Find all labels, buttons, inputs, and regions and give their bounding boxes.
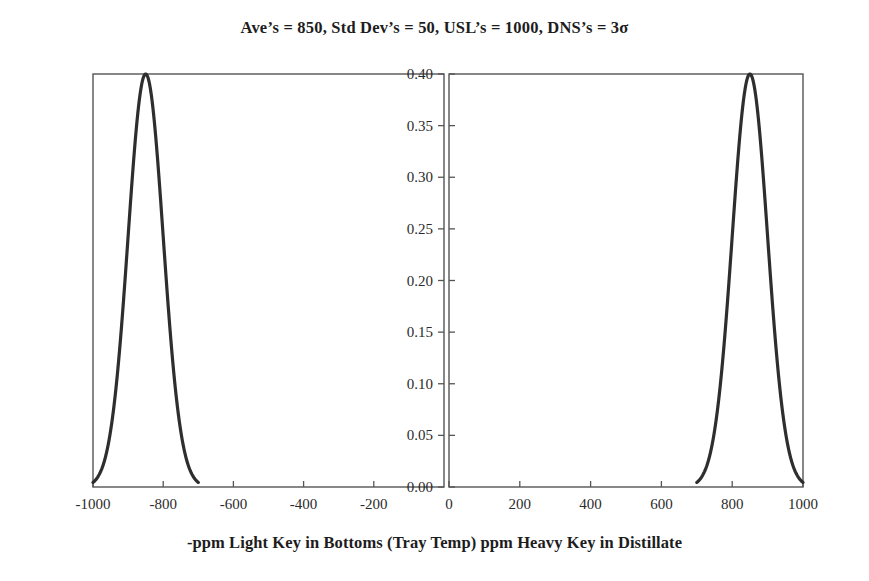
x-axis-label: -ppm Light Key in Bottoms (Tray Temp) pp… xyxy=(0,533,869,553)
x-tick-label: -800 xyxy=(149,496,177,512)
plot-area: 0.000.050.100.150.200.250.300.350.40 -10… xyxy=(0,0,869,581)
x-tick-label: -200 xyxy=(360,496,388,512)
x-tick-label: 400 xyxy=(579,496,602,512)
panel-frame-left-panel xyxy=(93,74,444,487)
curve-light-key-distribution xyxy=(93,74,198,482)
curve-heavy-key-distribution xyxy=(697,74,803,482)
x-tick-label: 800 xyxy=(721,496,744,512)
x-axis-ticks: -1000-800-600-400-20002004006008001000 xyxy=(76,481,819,512)
panel-frame-right-panel xyxy=(449,74,803,487)
y-tick-label: 0.00 xyxy=(407,479,433,495)
x-tick-label: -400 xyxy=(290,496,318,512)
y-tick-label: 0.30 xyxy=(407,169,433,185)
y-tick-label: 0.25 xyxy=(407,221,433,237)
x-tick-label: -600 xyxy=(220,496,248,512)
plot-frames xyxy=(93,74,803,487)
x-tick-label: -1000 xyxy=(76,496,111,512)
y-axis-ticks: 0.000.050.100.150.200.250.300.350.40 xyxy=(407,66,455,495)
x-tick-label: 200 xyxy=(509,496,532,512)
chart-figure: Ave’s = 850, Std Dev’s = 50, USL’s = 100… xyxy=(0,0,869,581)
distribution-curves xyxy=(93,74,803,482)
y-tick-label: 0.15 xyxy=(407,324,433,340)
x-tick-label: 0 xyxy=(445,496,453,512)
x-tick-label: 600 xyxy=(650,496,673,512)
y-tick-label: 0.20 xyxy=(407,273,433,289)
y-tick-label: 0.05 xyxy=(407,427,433,443)
y-tick-label: 0.35 xyxy=(407,118,433,134)
y-tick-label: 0.40 xyxy=(407,66,433,82)
x-tick-label: 1000 xyxy=(788,496,818,512)
y-tick-label: 0.10 xyxy=(407,376,433,392)
